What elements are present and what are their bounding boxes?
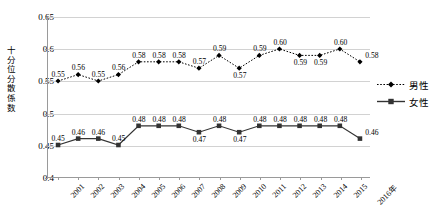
data-point-marker (216, 53, 221, 58)
data-point-marker (96, 136, 101, 141)
data-point-marker (116, 72, 121, 77)
data-point-label: 0.48 (213, 115, 226, 124)
x-axis-tick-label: 2006 (170, 182, 188, 200)
data-point-marker (136, 124, 141, 129)
legend-item-label: 男性 (409, 78, 429, 92)
x-axis-tick-label: 2009 (230, 182, 248, 200)
data-point-label: 0.58 (152, 51, 165, 60)
data-point-marker (76, 136, 81, 141)
x-axis-tick (159, 177, 160, 180)
data-point-marker (357, 59, 362, 64)
data-point-marker (297, 124, 302, 129)
x-axis-tick (98, 177, 99, 180)
data-point-label: 0.47 (233, 135, 246, 144)
legend-item-女性[interactable]: 女性 (376, 93, 429, 110)
x-axis-tick-label: 2015 (351, 182, 369, 200)
data-point-marker (56, 143, 61, 148)
data-point-label: 0.59 (213, 44, 226, 53)
legend-item-男性[interactable]: 男性 (376, 76, 429, 93)
data-point-marker (96, 78, 101, 83)
series-lines (48, 17, 370, 177)
data-point-label: 0.56 (112, 63, 125, 72)
x-axis-tick (119, 177, 120, 180)
data-point-label: 0.60 (274, 38, 287, 47)
data-point-marker (55, 78, 60, 83)
x-axis-tick (78, 177, 79, 180)
x-axis-tick (260, 177, 261, 180)
y-axis-tick (45, 178, 48, 179)
data-point-label: 0.48 (173, 115, 186, 124)
x-axis-tick-label: 2012 (291, 182, 309, 200)
data-point-label: 0.48 (314, 115, 327, 124)
data-point-marker (277, 46, 282, 51)
data-point-marker (237, 66, 242, 71)
data-point-marker (156, 59, 161, 64)
x-axis-tick-label: 2005 (150, 182, 168, 200)
data-point-marker (257, 53, 262, 58)
square-marker-icon (376, 96, 406, 107)
x-axis-tick-label: 2016年 (374, 182, 399, 207)
data-point-marker (197, 130, 202, 135)
data-point-label: 0.48 (274, 115, 287, 124)
x-axis-tick-label: 2007 (190, 182, 208, 200)
data-point-label: 0.57 (193, 57, 206, 66)
data-point-marker (358, 136, 363, 141)
data-point-marker (176, 59, 181, 64)
y-axis-title: 十分位分散係数 (4, 46, 18, 113)
x-axis-tick-label: 2011 (271, 182, 288, 199)
data-point-label: 0.58 (365, 51, 378, 60)
data-point-marker (156, 124, 161, 129)
data-point-marker (136, 59, 141, 64)
x-axis-tick-label: 2010 (250, 182, 268, 200)
x-axis-tick (58, 177, 59, 180)
x-axis-tick (179, 177, 180, 180)
data-point-marker (177, 124, 182, 129)
legend-item-label: 女性 (409, 95, 429, 109)
data-point-marker (237, 130, 242, 135)
x-axis-tick (139, 177, 140, 180)
plot-area: 0.550.560.550.560.580.580.580.570.590.57… (47, 17, 370, 178)
x-axis-tick-label: 2004 (129, 182, 147, 200)
data-point-marker (217, 124, 222, 129)
x-axis-tick (199, 177, 200, 180)
data-point-label: 0.48 (152, 115, 165, 124)
x-axis-tick-label: 2014 (331, 182, 349, 200)
x-axis-tick-label: 2002 (89, 182, 107, 200)
data-point-label: 0.58 (173, 51, 186, 60)
data-point-label: 0.48 (253, 115, 266, 124)
x-axis-tick-label: 2008 (210, 182, 228, 200)
data-point-marker (337, 46, 342, 51)
data-point-label: 0.57 (233, 71, 246, 80)
x-axis-tick (280, 177, 281, 180)
legend: 男性女性 (376, 76, 429, 110)
data-point-label: 0.59 (314, 58, 327, 67)
data-point-marker (317, 124, 322, 129)
x-axis-tick (240, 177, 241, 180)
data-point-label: 0.55 (92, 70, 105, 79)
x-axis-tick (321, 177, 322, 180)
data-point-label: 0.55 (51, 70, 64, 79)
data-point-label: 0.45 (112, 134, 125, 143)
x-axis-tick-label: 2001 (69, 182, 87, 200)
x-axis-tick-label: 2003 (109, 182, 127, 200)
data-point-marker (196, 66, 201, 71)
data-point-label: 0.56 (72, 63, 85, 72)
x-axis-tick (361, 177, 362, 180)
data-point-marker (338, 124, 343, 129)
data-point-marker (116, 143, 121, 148)
data-point-marker (257, 124, 262, 129)
data-point-marker (76, 72, 81, 77)
data-point-label: 0.48 (334, 115, 347, 124)
x-axis-tick (341, 177, 342, 180)
data-point-label: 0.48 (294, 115, 307, 124)
y-axis-title-char: 数 (4, 104, 18, 114)
data-point-marker (277, 124, 282, 129)
decile-dispersion-coefficient-chart: 十分位分散係数 0.40.450.50.550.60.65 0.550.560.… (0, 0, 429, 220)
data-point-label: 0.59 (294, 58, 307, 67)
data-point-label: 0.59 (253, 44, 266, 53)
x-axis-tick-label: 2013 (311, 182, 329, 200)
data-point-label: 0.48 (132, 115, 145, 124)
data-point-label: 0.46 (92, 128, 105, 137)
x-axis-tick (300, 177, 301, 180)
data-point-label: 0.45 (51, 134, 64, 143)
